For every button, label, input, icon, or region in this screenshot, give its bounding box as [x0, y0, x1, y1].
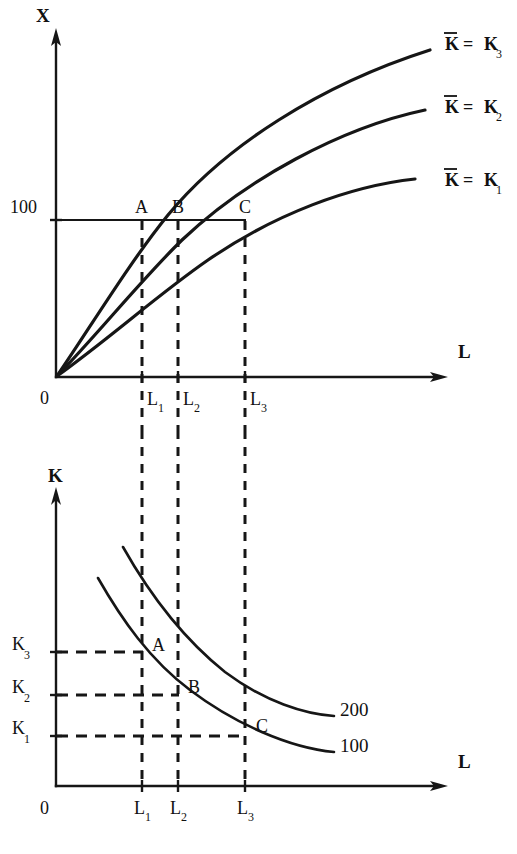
upper-point-label-b: B: [172, 197, 184, 217]
isoquant-label-200: 200: [340, 699, 369, 720]
svg-text:L: L: [250, 389, 261, 409]
lower-point-label-a: A: [152, 635, 165, 655]
lower-x-tick-label-l3: L 3: [237, 798, 254, 824]
svg-text:3: 3: [248, 810, 254, 824]
svg-text:2: 2: [24, 691, 30, 705]
production-curve-k2: [57, 110, 425, 376]
svg-text:2: 2: [496, 110, 502, 124]
lower-panel: K L 0 K 3: [12, 430, 471, 824]
svg-text:=: =: [463, 34, 473, 54]
lower-point-label-b: B: [188, 677, 200, 697]
curve-label-k1: K = K 1: [444, 169, 502, 197]
isoquant-curve-200: [123, 547, 334, 716]
svg-text:1: 1: [24, 732, 30, 746]
svg-text:3: 3: [496, 47, 502, 61]
upper-point-label-a: A: [135, 197, 148, 217]
svg-text:1: 1: [496, 183, 502, 197]
upper-origin-label: 0: [40, 388, 49, 408]
svg-text:L: L: [134, 798, 145, 818]
lower-x-tick-label-l1: L 1: [134, 798, 151, 824]
upper-y-tick-label-100: 100: [10, 197, 37, 217]
svg-text:K: K: [445, 170, 459, 190]
svg-text:L: L: [237, 798, 248, 818]
upper-panel: 100 X L 0 A B C L 1: [10, 5, 502, 430]
svg-text:3: 3: [24, 648, 30, 662]
lower-y-tick-label-k3: K 3: [12, 634, 30, 662]
svg-text:1: 1: [145, 810, 151, 824]
diagram-canvas: 100 X L 0 A B C L 1: [0, 0, 517, 854]
svg-text:K: K: [445, 34, 459, 54]
upper-y-axis-label: X: [36, 5, 50, 26]
svg-text:2: 2: [181, 810, 187, 824]
production-curve-k1: [57, 179, 415, 376]
upper-x-axis-label: L: [458, 341, 471, 362]
lower-origin-label: 0: [40, 798, 49, 818]
svg-text:L: L: [170, 798, 181, 818]
svg-text:3: 3: [261, 401, 267, 415]
curve-label-k3: K = K 3: [444, 33, 502, 61]
economics-figure: 100 X L 0 A B C L 1: [0, 0, 517, 854]
lower-y-tick-label-k2: K 2: [12, 677, 30, 705]
lower-x-tick-label-l2: L 2: [170, 798, 187, 824]
upper-point-label-c: C: [239, 197, 251, 217]
lower-point-label-c: C: [256, 716, 268, 736]
svg-text:L: L: [183, 389, 194, 409]
upper-x-tick-label-l2: L 2: [183, 389, 200, 415]
lower-x-axis-label: L: [458, 751, 471, 772]
upper-x-tick-label-l1: L 1: [147, 389, 164, 415]
upper-x-tick-label-l3: L 3: [250, 389, 267, 415]
svg-text:=: =: [463, 170, 473, 190]
svg-text:=: =: [463, 97, 473, 117]
svg-text:2: 2: [194, 401, 200, 415]
svg-text:K: K: [445, 97, 459, 117]
lower-y-tick-label-k1: K 1: [12, 718, 30, 746]
lower-y-axis-label: K: [48, 465, 63, 486]
svg-text:L: L: [147, 389, 158, 409]
isoquant-label-100: 100: [340, 735, 369, 756]
svg-text:1: 1: [158, 401, 164, 415]
curve-label-k2: K = K 2: [444, 96, 502, 124]
